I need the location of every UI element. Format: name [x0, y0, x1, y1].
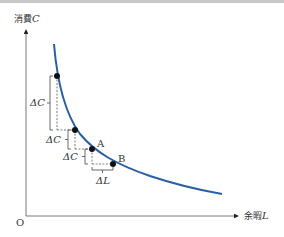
- delta-l-label: ΔL: [96, 176, 110, 186]
- point-p2: [72, 127, 78, 133]
- x-axis-label-var: L: [262, 210, 269, 221]
- delta-l-bracket: [92, 167, 113, 173]
- delta-c-label-2: ΔC: [46, 135, 61, 145]
- y-axis-label-text: 消費: [14, 14, 32, 24]
- y-axis-label-var: C: [32, 13, 40, 24]
- diagram-canvas: [0, 0, 284, 237]
- delta-c-label-3: ΔC: [63, 152, 78, 162]
- point-p1: [54, 73, 60, 79]
- origin-label: O: [16, 218, 24, 228]
- point-a: [89, 146, 95, 152]
- delta-c-bracket-3: [82, 149, 88, 164]
- x-axis-label: 余暇L: [244, 211, 269, 221]
- point-b: [110, 161, 116, 167]
- x-axis-label-text: 余暇: [244, 211, 262, 221]
- delta-c-bracket-1: [47, 76, 53, 130]
- delta-c-bracket-2: [65, 130, 71, 149]
- delta-c-label-1: ΔC: [30, 98, 45, 108]
- point-a-label: A: [97, 139, 104, 149]
- y-axis-label: 消費C: [14, 14, 40, 24]
- indifference-curve: [54, 44, 222, 194]
- point-b-label: B: [118, 154, 125, 164]
